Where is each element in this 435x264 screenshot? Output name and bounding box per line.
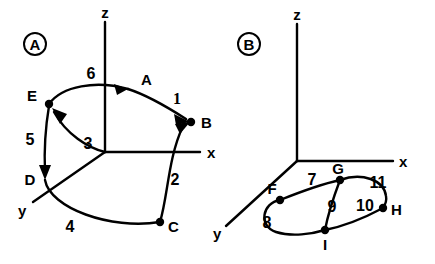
figure-canvas: A z x y <box>0 0 435 264</box>
panel-b-marker: B <box>238 33 260 55</box>
panel-b-edge-10-label: 10 <box>356 197 374 214</box>
panel-a-marker-label: A <box>30 36 41 53</box>
panel-b-edge-9-label: 9 <box>328 198 337 215</box>
panel-a-marker: A <box>24 33 46 55</box>
panel-b-node-f-label: F <box>267 180 276 197</box>
panel-b-node-g-label: G <box>332 160 344 177</box>
panel-a: A z x y <box>18 4 216 235</box>
panel-a-z-axis-label: z <box>101 4 109 21</box>
panel-a-edge-5-label: 5 <box>26 131 35 148</box>
panel-a-arrow-to-d <box>39 165 51 180</box>
panel-a-edge-1-label: 1 <box>173 90 181 107</box>
panel-a-arrow-to-e <box>52 108 67 124</box>
panel-a-edge-4-path <box>45 180 160 224</box>
panel-a-edges <box>45 85 186 224</box>
panel-a-node-e[interactable] <box>45 100 53 108</box>
panel-a-node-c[interactable] <box>156 218 164 226</box>
panel-a-node-b[interactable] <box>187 118 195 126</box>
panel-a-edge-4-label: 4 <box>66 218 75 235</box>
panel-a-node-a-label: A <box>141 71 152 88</box>
panel-a-node-c-label: C <box>168 218 179 235</box>
panel-b-edge-11-label: 11 <box>370 174 387 191</box>
panel-a-edge-2-label: 2 <box>171 171 180 188</box>
panel-b-node-h[interactable] <box>379 204 387 212</box>
panel-a-x-axis-label: x <box>207 144 216 161</box>
panel-a-node-e-label: E <box>27 87 37 104</box>
panel-b-node-i[interactable] <box>321 226 329 234</box>
panel-b-z-axis-label: z <box>293 6 301 23</box>
panel-a-arrowheads <box>39 84 190 180</box>
panel-b-node-h-label: H <box>391 201 402 218</box>
panel-a-edge-6-label: 6 <box>87 65 96 82</box>
panel-b-y-axis <box>226 161 297 226</box>
panel-b-node-g[interactable] <box>336 176 344 184</box>
panel-b-marker-label: B <box>244 36 255 53</box>
panel-a-y-axis-label: y <box>18 202 27 219</box>
panel-b-node-i-label: I <box>323 236 327 253</box>
panel-b: B z x y <box>213 6 408 253</box>
panel-b-y-axis-label: y <box>213 225 222 242</box>
panel-a-edge-3-label: 3 <box>84 135 93 152</box>
panel-b-edge-8-label: 8 <box>263 214 272 231</box>
panel-a-node-b-label: B <box>201 114 212 131</box>
panel-b-edge-7-label: 7 <box>308 171 317 188</box>
panel-b-edge-8-path <box>264 200 325 235</box>
panel-a-node-d-label: D <box>25 171 36 188</box>
panel-a-edge-5-path <box>45 106 49 172</box>
diagram-svg: A z x y <box>0 0 435 264</box>
panel-b-node-f[interactable] <box>276 196 284 204</box>
panel-b-x-axis-label: x <box>399 153 408 170</box>
panel-a-arrow-to-a <box>114 84 128 95</box>
